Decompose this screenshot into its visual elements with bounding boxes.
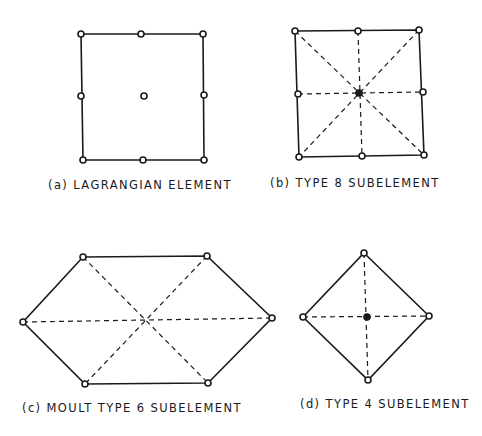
element-boundary bbox=[23, 256, 272, 384]
node bbox=[292, 28, 298, 34]
node bbox=[78, 93, 84, 99]
node bbox=[205, 380, 211, 386]
center-node bbox=[364, 314, 370, 320]
node bbox=[421, 152, 427, 158]
center-node bbox=[141, 93, 147, 99]
node bbox=[80, 254, 86, 260]
panel-c-moult-type-6-subelement bbox=[20, 253, 275, 387]
node bbox=[420, 89, 426, 95]
node bbox=[355, 28, 361, 34]
diagonal-line bbox=[85, 256, 207, 384]
node bbox=[300, 314, 306, 320]
node bbox=[200, 31, 206, 37]
panel-a-lagrangian-element bbox=[78, 31, 207, 163]
node bbox=[82, 381, 88, 387]
node bbox=[20, 319, 26, 325]
node bbox=[201, 157, 207, 163]
node bbox=[138, 31, 144, 37]
node bbox=[80, 157, 86, 163]
center-node bbox=[356, 90, 362, 96]
node bbox=[426, 313, 432, 319]
caption-a: (a) LAGRANGIAN ELEMENT bbox=[48, 177, 232, 192]
caption-c: (c) MOULT TYPE 6 SUBELEMENT bbox=[22, 400, 242, 415]
node bbox=[361, 250, 367, 256]
node bbox=[295, 91, 301, 97]
panel-d-type-4-subelement bbox=[300, 250, 432, 383]
node bbox=[416, 27, 422, 33]
node bbox=[296, 154, 302, 160]
node bbox=[359, 153, 365, 159]
caption-d: (d) TYPE 4 SUBELEMENT bbox=[300, 396, 470, 411]
diagonal-line bbox=[83, 257, 208, 383]
node bbox=[269, 315, 275, 321]
node bbox=[201, 92, 207, 98]
node bbox=[140, 157, 146, 163]
caption-b: (b) TYPE 8 SUBELEMENT bbox=[270, 175, 440, 190]
node bbox=[365, 377, 371, 383]
node bbox=[78, 31, 84, 37]
panel-b-type-8-subelement bbox=[292, 27, 427, 160]
figure-canvas bbox=[0, 0, 482, 436]
node bbox=[204, 253, 210, 259]
